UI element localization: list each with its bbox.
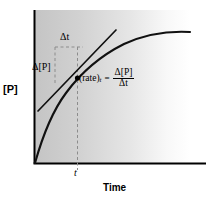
- x-tick-label-t: t: [74, 168, 77, 178]
- delta-p-annotation: Δ[P]: [32, 62, 51, 72]
- rate-subscript-t: t: [100, 76, 102, 84]
- rate-equation: (rate)t = Δ[P] Δt: [79, 68, 134, 89]
- y-axis-label: [P]: [3, 84, 18, 95]
- equals-sign: =: [105, 73, 110, 83]
- plot-canvas: [0, 0, 211, 202]
- rate-term-label: (rate): [79, 73, 100, 83]
- x-axis-label: Time: [103, 183, 126, 193]
- delta-t-annotation: Δt: [60, 32, 69, 42]
- rate-fraction: Δ[P] Δt: [113, 68, 135, 89]
- fraction-denominator: Δt: [113, 78, 135, 89]
- kinetics-rate-figure: [P] Time t Δt Δ[P] (rate)t = Δ[P] Δt: [0, 0, 211, 202]
- fraction-numerator: Δ[P]: [113, 68, 135, 78]
